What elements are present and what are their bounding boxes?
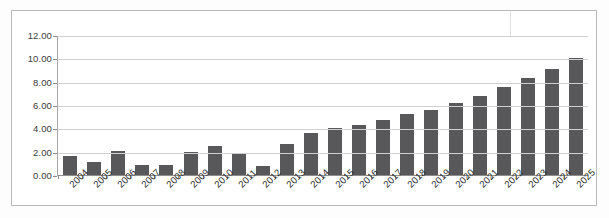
- x-axis-label-slot: 2012: [250, 176, 274, 218]
- chart-page: 12.0010.008.006.004.002.000.00 200420052…: [0, 0, 609, 218]
- y-axis-tick: [53, 83, 57, 84]
- y-axis-tick-label: 12.00: [0, 31, 52, 41]
- bar[interactable]: [232, 153, 246, 175]
- x-axis-label-slot: 2017: [371, 176, 395, 218]
- bar[interactable]: [497, 87, 511, 175]
- y-axis-tick-label: 8.00: [0, 78, 52, 88]
- bar[interactable]: [424, 110, 438, 175]
- y-axis-tick: [53, 153, 57, 154]
- x-axis-label-slot: 2006: [105, 176, 129, 218]
- x-axis-label-slot: 2005: [81, 176, 105, 218]
- bar[interactable]: [521, 78, 535, 175]
- x-axis-label-slot: 2023: [516, 176, 540, 218]
- gridline: [58, 129, 588, 130]
- gridline: [58, 106, 588, 107]
- x-axis-label-slot: 2013: [274, 176, 298, 218]
- x-axis-label-slot: 2024: [540, 176, 564, 218]
- bar-chart: 12.0010.008.006.004.002.000.00 200420052…: [0, 0, 609, 218]
- x-axis-label-slot: 2008: [154, 176, 178, 218]
- y-axis-tick: [53, 106, 57, 107]
- bar[interactable]: [111, 151, 125, 175]
- x-axis-label-slot: 2020: [443, 176, 467, 218]
- x-axis-labels: 2004200520062007200820092010201120122013…: [57, 176, 588, 218]
- gridline: [58, 153, 588, 154]
- x-axis-label-slot: 2014: [298, 176, 322, 218]
- x-axis-label-slot: 2021: [467, 176, 491, 218]
- y-axis-tick-label: 6.00: [0, 101, 52, 111]
- bar[interactable]: [400, 114, 414, 175]
- gridline: [58, 83, 588, 84]
- y-axis-tick-label: 10.00: [0, 55, 52, 65]
- gridline: [58, 59, 588, 60]
- x-axis-label-slot: 2009: [178, 176, 202, 218]
- x-axis-label-slot: 2010: [202, 176, 226, 218]
- bar[interactable]: [304, 133, 318, 175]
- bar[interactable]: [449, 103, 463, 175]
- x-axis-label-slot: 2015: [323, 176, 347, 218]
- bar[interactable]: [473, 96, 487, 175]
- bar[interactable]: [184, 152, 198, 175]
- bar[interactable]: [280, 144, 294, 176]
- bar[interactable]: [569, 58, 583, 175]
- x-axis-label-slot: 2007: [129, 176, 153, 218]
- y-axis-tick-label: 0.00: [0, 171, 52, 181]
- y-axis-tick: [53, 59, 57, 60]
- x-axis-label-slot: 2016: [347, 176, 371, 218]
- x-axis-label-slot: 2022: [492, 176, 516, 218]
- x-axis-label-slot: 2019: [419, 176, 443, 218]
- gridline: [58, 36, 588, 37]
- x-axis-label-slot: 2011: [226, 176, 250, 218]
- y-axis-tick-label: 2.00: [0, 148, 52, 158]
- plot-area: [57, 36, 588, 176]
- bar[interactable]: [208, 146, 222, 175]
- y-axis-tick: [53, 129, 57, 130]
- y-axis-tick-label: 4.00: [0, 125, 52, 135]
- bar[interactable]: [352, 125, 366, 175]
- bar[interactable]: [545, 69, 559, 175]
- x-axis-label-slot: 2004: [57, 176, 81, 218]
- y-axis-tick: [53, 36, 57, 37]
- x-axis-label-slot: 2025: [564, 176, 588, 218]
- x-axis-label-slot: 2018: [395, 176, 419, 218]
